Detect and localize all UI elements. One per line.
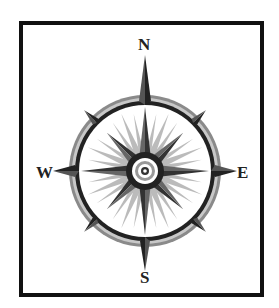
east-label: E xyxy=(237,164,248,181)
west-label: W xyxy=(36,164,53,181)
north-label: N xyxy=(138,36,150,53)
south-label: S xyxy=(140,269,149,286)
